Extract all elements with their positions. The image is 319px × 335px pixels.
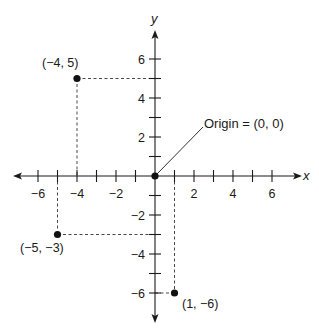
point-c-label: (1, −6)	[182, 297, 218, 311]
y-axis-label: y	[150, 11, 159, 26]
y-tick-label: 4	[138, 92, 145, 106]
origin-leader-line	[157, 127, 203, 174]
x-tick-label: 2	[191, 187, 198, 201]
point-b-label: (−5, −3)	[20, 241, 64, 255]
point-origin	[151, 172, 158, 179]
x-tick-label: 4	[230, 187, 237, 201]
y-tick-label: −2	[131, 209, 145, 223]
origin-annotation: Origin = (0, 0)	[204, 116, 284, 131]
point-b	[54, 231, 61, 238]
point-a	[73, 75, 80, 82]
y-tick-label: 2	[138, 131, 145, 145]
x-axis-label: x	[302, 168, 310, 183]
guide-lines	[58, 79, 175, 294]
y-tick-label: −4	[131, 248, 145, 262]
x-tick-label: 6	[269, 187, 276, 201]
x-tick-label: −2	[109, 187, 123, 201]
y-tick-label: 6	[138, 53, 145, 67]
points	[54, 75, 178, 297]
x-tick-label: −4	[70, 187, 84, 201]
coordinate-plane-diagram: x y −6 −4 −2 2 4 6 6 4 2 −2 −4 −6 Origin…	[0, 0, 319, 335]
y-tick-label: −6	[131, 287, 145, 301]
point-c	[171, 289, 178, 296]
coordinate-plane-svg: x y −6 −4 −2 2 4 6 6 4 2 −2 −4 −6 Origin…	[0, 0, 319, 335]
x-tick-labels: −6 −4 −2 2 4 6	[31, 187, 276, 201]
point-a-label: (−4, 5)	[42, 56, 78, 70]
x-tick-label: −6	[31, 187, 45, 201]
